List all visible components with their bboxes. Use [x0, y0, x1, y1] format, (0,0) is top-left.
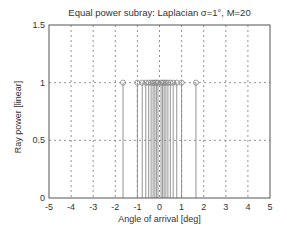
x-tick-label: 1 [179, 202, 184, 212]
x-tick-label: -5 [45, 202, 53, 212]
x-tick-label: -2 [111, 202, 119, 212]
x-tick-label: 3 [223, 202, 228, 212]
x-tick-label: 0 [157, 202, 162, 212]
x-tick-label: 5 [267, 202, 272, 212]
x-tick-label: -1 [133, 202, 141, 212]
x-tick-label: -4 [67, 202, 75, 212]
y-tick-label: 0.5 [32, 135, 45, 145]
x-tick-label: -3 [89, 202, 97, 212]
x-tick-label: 4 [245, 202, 250, 212]
y-tick-label: 1.5 [32, 20, 45, 30]
y-tick-label: 1 [40, 78, 45, 88]
x-tick-label: 2 [201, 202, 206, 212]
stem-plot: -5-4-3-2-101234500.511.5 [0, 0, 287, 240]
y-tick-label: 0 [40, 193, 45, 203]
